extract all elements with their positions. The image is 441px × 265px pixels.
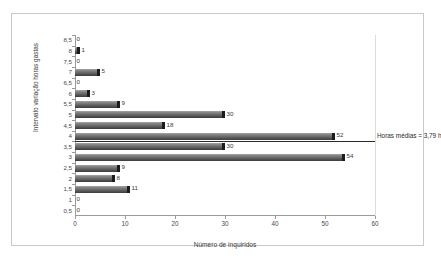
bar	[75, 101, 120, 108]
bar-row: 0	[75, 78, 375, 88]
bar-end-cap	[77, 47, 80, 54]
y-axis-title: Intervalo variação horas gastas	[32, 13, 39, 163]
x-axis-tick-label: 60	[363, 220, 387, 227]
x-axis-tick-label: 0	[63, 220, 87, 227]
bar-value-label: 52	[337, 130, 344, 140]
bar-end-cap	[222, 111, 225, 118]
x-axis-tick-label: 10	[113, 220, 137, 227]
y-axis-tick-label: 0,5	[12, 206, 75, 216]
x-axis-tick-mark	[175, 216, 176, 219]
x-axis-title: Número de inquiridos	[75, 241, 375, 248]
bar	[75, 111, 225, 118]
y-axis-tick-label: 7,5	[12, 57, 75, 67]
bar-value-label: 30	[227, 109, 234, 119]
bar-end-cap	[162, 122, 165, 129]
x-axis-tick-mark	[375, 216, 376, 219]
y-axis-tick-label: 6	[12, 89, 75, 99]
x-axis-tick-mark	[125, 216, 126, 219]
bar-row: 3	[75, 89, 375, 99]
bar-row: 0	[75, 57, 375, 67]
bar-value-label: 8	[117, 173, 120, 183]
bar-value-label: 54	[347, 151, 354, 161]
y-axis-tick-label: 5	[12, 110, 75, 120]
bar-row: 30	[75, 110, 375, 120]
bar	[75, 154, 345, 161]
bar-end-cap	[342, 154, 345, 161]
bar-end-cap	[127, 186, 130, 193]
y-axis-tick-label: 4	[12, 131, 75, 141]
bar-row: 0	[75, 195, 375, 205]
bar-row: 1	[75, 46, 375, 56]
bar-row: 52	[75, 131, 375, 141]
bar-row: 0	[75, 206, 375, 216]
bar-value-label: 5	[102, 66, 105, 76]
bar-end-cap	[112, 175, 115, 182]
bar-value-label: 11	[132, 183, 138, 193]
bar-value-label: 1	[82, 45, 85, 55]
bar	[75, 175, 115, 182]
bar-row: 9	[75, 99, 375, 109]
bar-value-label: 0	[77, 56, 80, 66]
mean-line	[75, 141, 375, 142]
x-axis-tick-mark	[325, 216, 326, 219]
bar-row: 54	[75, 152, 375, 162]
bar-end-cap	[222, 143, 225, 150]
bar-end-cap	[332, 133, 335, 140]
bar	[75, 186, 130, 193]
bar-value-label: 30	[227, 141, 234, 151]
y-axis-tick-label: 6,5	[12, 78, 75, 88]
y-axis-tick-label: 8	[12, 46, 75, 56]
bar-value-label: 0	[77, 194, 80, 204]
chart-outer-frame: 8,587,576,565,554,543,532,521,510,5 0105…	[11, 13, 424, 246]
y-axis-tick-label: 5,5	[12, 99, 75, 109]
x-axis-tick-mark	[75, 216, 76, 219]
x-axis-tick-label: 50	[313, 220, 337, 227]
bar-row: 8	[75, 174, 375, 184]
bar	[75, 143, 225, 150]
bar-end-cap	[97, 69, 100, 76]
x-axis-tick-label: 30	[213, 220, 237, 227]
x-axis-tick-label: 40	[263, 220, 287, 227]
bar-value-label: 9	[122, 162, 125, 172]
x-axis-tick-mark	[225, 216, 226, 219]
y-axis-tick-label: 1	[12, 195, 75, 205]
y-axis-tick-label: 3	[12, 152, 75, 162]
bar-row: 18	[75, 121, 375, 131]
bar-end-cap	[87, 90, 90, 97]
bar-value-label: 0	[77, 34, 80, 44]
bar-end-cap	[117, 101, 120, 108]
mean-line-annotation-label: Horas médias = 3,79 h	[377, 132, 441, 139]
y-axis-tick-label: 2,5	[12, 163, 75, 173]
bar	[75, 165, 120, 172]
bar-row: 0	[75, 35, 375, 45]
x-axis-tick-mark	[275, 216, 276, 219]
y-axis-tick-label: 7	[12, 67, 75, 77]
bar-value-label: 3	[92, 88, 95, 98]
bar-row: 11	[75, 184, 375, 194]
bar-end-cap	[117, 165, 120, 172]
plot-right-boundary	[375, 35, 376, 216]
y-axis-tick-label: 2	[12, 174, 75, 184]
bar-row: 30	[75, 142, 375, 152]
y-axis-tick-label: 8,5	[12, 35, 75, 45]
x-axis-tick-label: 20	[163, 220, 187, 227]
bar-value-label: 0	[77, 77, 80, 87]
y-axis-tick-label: 1,5	[12, 184, 75, 194]
bar	[75, 122, 165, 129]
y-axis-tick-label: 4,5	[12, 121, 75, 131]
y-axis-tick-label: 3,5	[12, 142, 75, 152]
bar-row: 9	[75, 163, 375, 173]
bar-value-label: 18	[167, 120, 174, 130]
bar-value-label: 9	[122, 98, 125, 108]
bar	[75, 133, 335, 140]
bar-value-label: 0	[77, 205, 80, 215]
bar-row: 5	[75, 67, 375, 77]
